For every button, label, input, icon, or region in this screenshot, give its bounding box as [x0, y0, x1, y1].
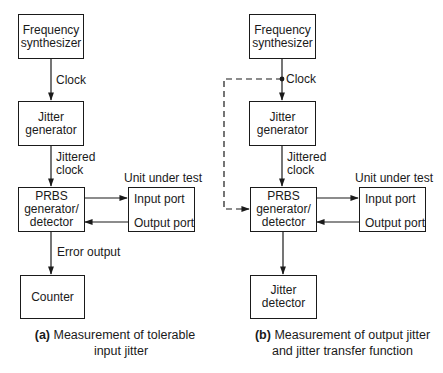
a-frequency-synthesizer-block: Frequency synthesizer: [18, 14, 84, 59]
b-clock-junction-dot: [280, 77, 285, 82]
a-jitter-gen-line1: Jitter: [38, 111, 64, 124]
a-freq-synth-line2: synthesizer: [21, 37, 82, 50]
b-caption-line1: (b) Measurement of output jitter: [250, 327, 435, 343]
b-caption-line2: and jitter transfer function: [250, 343, 435, 359]
a-jittered-clock-label-2: clock: [56, 164, 83, 177]
b-freq-synth-line2: synthesizer: [252, 37, 313, 50]
b-unit-under-test-title: Unit under test: [355, 172, 433, 185]
a-jitter-gen-line2: generator: [25, 124, 76, 137]
a-output-port: Output port: [134, 216, 194, 230]
a-counter-block: Counter: [20, 275, 85, 319]
a-freq-synth-line1: Frequency: [23, 24, 80, 37]
b-frequency-synthesizer-block: Frequency synthesizer: [249, 14, 316, 59]
b-clock-label: Clock: [286, 73, 316, 86]
a-jitter-generator-block: Jitter generator: [18, 101, 84, 146]
a-unit-under-test-block: Input port Output port: [128, 187, 195, 232]
b-caption: (b) Measurement of output jitter and jit…: [250, 327, 435, 359]
a-error-output-label: Error output: [57, 246, 120, 259]
b-prbs-line3: detector: [262, 216, 305, 229]
a-caption-line1: (a) Measurement of tolerable: [33, 327, 197, 343]
b-caption-tag: (b): [255, 328, 271, 342]
b-jitter-detector-line2: detector: [262, 297, 305, 310]
a-unit-under-test-title: Unit under test: [124, 172, 202, 185]
b-freq-synth-line1: Frequency: [254, 24, 311, 37]
b-input-port: Input port: [365, 192, 416, 206]
b-prbs-generator-detector-block: PRBS generator/ detector: [250, 187, 317, 232]
a-prbs-generator-detector-block: PRBS generator/ detector: [18, 187, 85, 232]
a-clock-label: Clock: [56, 74, 86, 87]
a-counter-label: Counter: [31, 291, 74, 304]
a-caption-tag: (a): [35, 328, 50, 342]
b-output-port: Output port: [365, 216, 425, 230]
b-unit-under-test-block: Input port Output port: [359, 187, 426, 232]
b-jitter-generator-block: Jitter generator: [249, 101, 316, 146]
a-input-port: Input port: [134, 192, 185, 206]
b-caption-text1: Measurement of output jitter: [274, 328, 430, 342]
a-caption: (a) Measurement of tolerable input jitte…: [33, 327, 197, 359]
b-jitter-gen-line1: Jitter: [269, 111, 295, 124]
b-jitter-gen-line2: generator: [257, 124, 308, 137]
a-caption-text1: Measurement of tolerable: [54, 328, 196, 342]
b-jitter-detector-block: Jitter detector: [250, 275, 317, 319]
a-caption-line2: input jitter: [33, 343, 197, 359]
a-prbs-line3: detector: [30, 216, 73, 229]
b-jittered-clock-label-2: clock: [287, 164, 314, 177]
